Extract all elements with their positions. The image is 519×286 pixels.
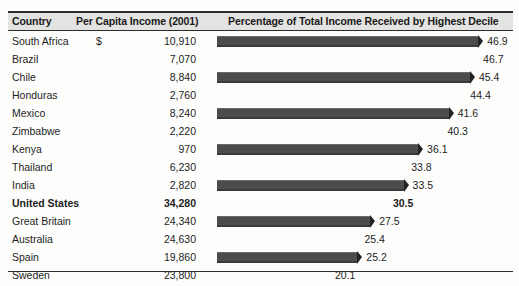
column-header-country: Country [12, 15, 52, 27]
cell-country: Kenya [12, 143, 42, 155]
cell-country: Mexico [12, 107, 45, 119]
bar-value-label: 44.4 [470, 89, 490, 101]
currency-symbol: $ [96, 35, 102, 47]
bar-value-label: 40.3 [447, 125, 467, 137]
cell-per-capita-income: 2,760 [96, 89, 196, 101]
bar-value-label: 46.9 [487, 35, 507, 47]
cell-per-capita-income: $10,910 [96, 35, 196, 47]
cell-country: India [12, 179, 35, 191]
header-bottom-border [8, 30, 513, 31]
cell-country: Honduras [12, 89, 58, 101]
income-amount: 6,230 [170, 161, 196, 173]
cell-per-capita-income: 2,820 [96, 179, 196, 191]
decile-share-bar [217, 36, 478, 47]
cell-per-capita-income: 8,840 [96, 71, 196, 83]
table-row: Spain19,86025.2 [0, 249, 519, 267]
decile-share-bar [217, 180, 404, 191]
table-row: South Africa$10,91046.9 [0, 33, 519, 51]
table-row: Honduras2,76044.4 [0, 87, 519, 105]
bar-value-label: 33.5 [413, 179, 433, 191]
cell-country: South Africa [12, 35, 69, 47]
cell-country: Australia [12, 233, 53, 245]
bar-value-label: 45.4 [479, 71, 499, 83]
income-amount: 8,240 [170, 107, 196, 119]
income-amount: 34,280 [164, 197, 196, 209]
cell-per-capita-income: 6,230 [96, 161, 196, 173]
income-amount: 2,820 [170, 179, 196, 191]
income-amount: 19,860 [164, 251, 196, 263]
column-header-per-capita-income: Per Capita Income (2001) [76, 15, 198, 27]
cell-country: Great Britain [12, 215, 71, 227]
cell-country: Spain [12, 251, 39, 263]
cell-per-capita-income: 7,070 [96, 53, 196, 65]
income-amount: 24,340 [164, 215, 196, 227]
income-amount: 970 [178, 143, 196, 155]
table-row: Chile8,84045.4 [0, 69, 519, 87]
bar-value-label: 25.2 [366, 251, 386, 263]
decile-share-bar [217, 144, 418, 155]
table-row: Australia24,63025.4 [0, 231, 519, 249]
bar-value-label: 27.5 [379, 215, 399, 227]
cell-per-capita-income: 8,240 [96, 107, 196, 119]
cell-country: Thailand [12, 161, 52, 173]
income-amount: 2,220 [170, 125, 196, 137]
table-bottom-border [8, 271, 513, 272]
table-row: Zimbabwe2,22040.3 [0, 123, 519, 141]
cell-country: Brazil [12, 53, 38, 65]
bar-value-label: 30.5 [393, 197, 413, 209]
bar-value-label: 46.7 [483, 53, 503, 65]
table-row: United States34,28030.5 [0, 195, 519, 213]
decile-share-bar [217, 252, 357, 263]
income-amount: 2,760 [170, 89, 196, 101]
table-row: Sweden23,80020.1 [0, 267, 519, 285]
bar-value-label: 36.1 [427, 143, 447, 155]
cell-per-capita-income: 34,280 [96, 197, 196, 209]
table-row: Kenya97036.1 [0, 141, 519, 159]
bar-value-label: 33.8 [411, 161, 431, 173]
cell-per-capita-income: 19,860 [96, 251, 196, 263]
cell-country: Chile [12, 71, 36, 83]
decile-share-bar [217, 72, 470, 83]
bar-value-label: 41.6 [458, 107, 478, 119]
table-row: India2,82033.5 [0, 177, 519, 195]
column-header-percentage-highest-decile: Percentage of Total Income Received by H… [228, 15, 499, 27]
table-row: Thailand6,23033.8 [0, 159, 519, 177]
cell-per-capita-income: 24,340 [96, 215, 196, 227]
cell-per-capita-income: 24,630 [96, 233, 196, 245]
income-amount: 7,070 [170, 53, 196, 65]
decile-share-bar [217, 216, 370, 227]
income-amount: 8,840 [170, 71, 196, 83]
decile-share-bar [217, 108, 449, 119]
table-row: Brazil7,07046.7 [0, 51, 519, 69]
cell-country: Zimbabwe [12, 125, 60, 137]
income-amount: 24,630 [164, 233, 196, 245]
bar-value-label: 25.4 [364, 233, 384, 245]
cell-per-capita-income: 970 [96, 143, 196, 155]
income-distribution-table-chart: Country Per Capita Income (2001) Percent… [0, 0, 519, 286]
cell-per-capita-income: 2,220 [96, 125, 196, 137]
cell-country: United States [12, 197, 79, 209]
table-row: Mexico8,24041.6 [0, 105, 519, 123]
income-amount: 10,910 [164, 35, 196, 47]
table-row: Great Britain24,34027.5 [0, 213, 519, 231]
